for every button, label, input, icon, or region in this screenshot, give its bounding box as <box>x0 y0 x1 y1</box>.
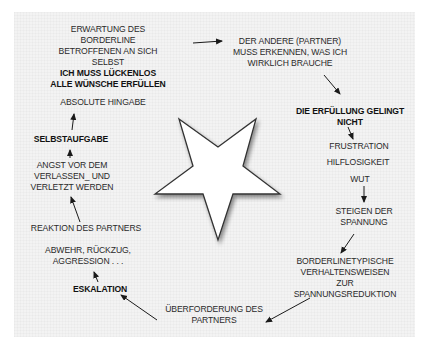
arrow-partner-to-fail <box>324 75 340 94</box>
node-tension-rise: STEIGEN DER SPANNUNG <box>335 206 392 228</box>
tension-line-2: SPANNUNG <box>335 217 392 228</box>
arrow-nicht-to-frustration <box>348 127 353 139</box>
node-fulfillment-fails: DIE ERFÜLLUNG GELINGT NICHT <box>296 106 404 128</box>
arrow-selbstaufgabe-to-hingabe <box>72 114 74 130</box>
node-hilflosigkeit: HILFLOSIGKEIT <box>327 157 390 168</box>
expectation-line-2: BORDERLINE <box>50 35 165 46</box>
behaviour-line-1: BORDERLINETYPISCHE <box>294 256 397 267</box>
behaviour-line-3: ZUR <box>294 278 397 289</box>
arrow-behaviour-to-overload <box>266 298 310 322</box>
partner-must-line-2: MUSS ERKENNEN, WAS ICH <box>233 47 347 58</box>
fulfillment-line-2: NICHT <box>296 117 404 128</box>
angst-line-3: VERLETZT WERDEN <box>31 182 114 193</box>
arrow-reaktion-to-angst <box>71 197 80 222</box>
node-partner-must: DER ANDERE (PARTNER) MUSS ERKENNEN, WAS … <box>233 36 347 69</box>
overload-line-2: PARTNERS <box>165 315 263 326</box>
partner-must-line-1: DER ANDERE (PARTNER) <box>233 36 347 47</box>
overload-line-1: ÜBERFORDERUNG DES <box>165 304 263 315</box>
behaviour-line-4: SPANNUNGSREDUKTION <box>294 289 397 300</box>
arrow-overload-to-eskalation <box>121 295 157 320</box>
arrow-expectation-to-partner <box>193 41 222 43</box>
abwehr-line-1: ABWEHR, RÜCKZUG, <box>45 245 131 256</box>
node-frustration: FRUSTRATION <box>329 141 388 152</box>
node-hingabe: ABSOLUTE HINGABE <box>60 97 145 108</box>
star-shape <box>155 119 280 240</box>
node-angst: ANGST VOR DEM VERLASSEN_ UND VERLETZT WE… <box>31 160 114 193</box>
node-eskalation: ESKALATION <box>73 284 127 295</box>
expectation-line-1: ERWARTUNG DES <box>50 24 165 35</box>
partner-must-line-3: WIRKLICH BRAUCHE <box>233 58 347 69</box>
behaviour-line-2: VERHALTENSWEISEN <box>294 267 397 278</box>
expectation-bold-2: ALLE WÜNSCHE ERFÜLLEN <box>50 79 165 90</box>
node-selbstaufgabe: SELBSTAUFGABE <box>34 134 108 145</box>
node-reaktion: REAKTION DES PARTNERS <box>31 223 141 234</box>
node-expectation: ERWARTUNG DES BORDERLINE BETROFFENEN AN … <box>50 24 165 90</box>
angst-line-1: ANGST VOR DEM <box>31 160 114 171</box>
node-overload: ÜBERFORDERUNG DES PARTNERS <box>165 304 263 326</box>
expectation-line-3: BETROFFENEN AN SICH <box>50 46 165 57</box>
tension-line-1: STEIGEN DER <box>335 206 392 217</box>
expectation-line-4: SELBST <box>50 57 165 68</box>
abwehr-line-2: AGGRESSION . . . <box>45 256 131 267</box>
fulfillment-line-1: DIE ERFÜLLUNG GELINGT <box>296 106 404 117</box>
angst-line-2: VERLASSEN_ UND <box>31 171 114 182</box>
node-borderline-behaviour: BORDERLINETYPISCHE VERHALTENSWEISEN ZUR … <box>294 256 397 300</box>
expectation-bold-1: ICH MUSS LÜCKENLOS <box>50 68 165 79</box>
arrow-eskalation-to-abwehr <box>94 272 98 282</box>
node-abwehr: ABWEHR, RÜCKZUG, AGGRESSION . . . <box>45 245 131 267</box>
arrow-tension-to-behaviour <box>341 234 354 253</box>
node-wut: WUT <box>350 174 369 185</box>
